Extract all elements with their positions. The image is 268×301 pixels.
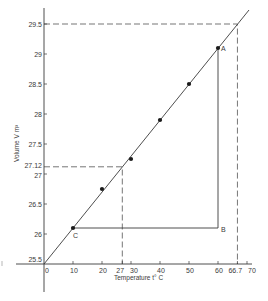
x-axis-title: Temperature t° C bbox=[114, 274, 164, 282]
y-tick-label: 27 bbox=[34, 172, 42, 179]
y-tick-label: 29 bbox=[34, 51, 42, 58]
x-tick-label: 0 bbox=[45, 267, 49, 274]
y-tick-label: 28 bbox=[34, 111, 42, 118]
x-tick-label: 27 bbox=[116, 267, 124, 274]
data-point bbox=[100, 187, 104, 191]
volume-temperature-chart: 01020273040506066.77025.52626.52727.1227… bbox=[0, 0, 268, 301]
data-point bbox=[158, 118, 162, 122]
y-tick-label: 28.5 bbox=[28, 81, 42, 88]
x-tick-label: 40 bbox=[157, 267, 165, 274]
x-tick-label: 66.7 bbox=[228, 267, 242, 274]
y-axis-title: Volume V m³ bbox=[13, 124, 20, 162]
tick-labels: 01020273040506066.77025.52626.52727.1227… bbox=[24, 21, 255, 275]
point-c-label: C bbox=[73, 232, 78, 239]
data-point bbox=[216, 46, 220, 50]
x-tick-label: 10 bbox=[70, 267, 78, 274]
y-tick-label: 25.5 bbox=[28, 256, 42, 263]
x-tick-label: 30 bbox=[130, 267, 138, 274]
point-b-label: B bbox=[221, 226, 226, 233]
x-tick-label: 20 bbox=[99, 267, 107, 274]
y-tick-label: 29.5 bbox=[28, 21, 42, 28]
point-a-label: A bbox=[221, 45, 226, 52]
data-point bbox=[71, 226, 75, 230]
y-tick-label: 27.12 bbox=[24, 162, 42, 169]
x-tick-label: 60 bbox=[215, 267, 223, 274]
y-tick-label: 26.5 bbox=[28, 201, 42, 208]
x-tick-label: 70 bbox=[248, 267, 256, 274]
x-tick-label: 50 bbox=[186, 267, 194, 274]
data-point bbox=[187, 82, 191, 86]
y-tick-label: 26 bbox=[34, 231, 42, 238]
data-point bbox=[129, 157, 133, 161]
y-tick-label: 27.5 bbox=[28, 141, 42, 148]
